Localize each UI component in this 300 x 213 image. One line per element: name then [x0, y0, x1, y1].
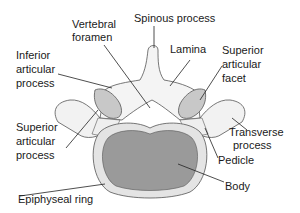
label-inferior-articular-process: Inferior articular process [16, 48, 55, 90]
label-transverse-process: Transverse process [229, 126, 284, 152]
vertebra-diagram: Vertebral foramen Spinous process Inferi… [0, 0, 300, 213]
label-epiphyseal-ring: Epiphyseal ring [18, 193, 93, 206]
label-superior-articular-process: Superior articular process [16, 120, 58, 162]
label-superior-articular-facet: Superior articular facet [222, 43, 264, 85]
body-core-shape [102, 131, 197, 191]
label-lamina: Lamina [170, 43, 206, 56]
vertebra-illustration [0, 0, 300, 213]
label-vertebral-foramen: Vertebral foramen [72, 18, 116, 44]
label-body: Body [225, 180, 250, 193]
label-pedicle: Pedicle [218, 154, 254, 167]
label-spinous-process: Spinous process [134, 12, 215, 25]
